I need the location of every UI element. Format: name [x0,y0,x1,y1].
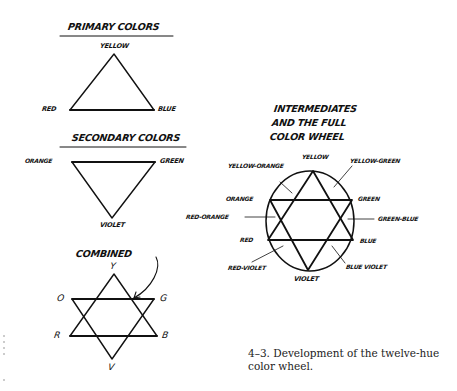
wheel-label-blue: BLUE [360,238,377,244]
wheel-label-orange: ORANGE [226,196,254,202]
label-green: GREEN [160,158,185,165]
letter-o: O [56,294,64,303]
wheel-label-green-blue: GREEN-BLUE [378,216,419,222]
combined-triangle-down [72,299,154,359]
scan-mark [3,347,5,349]
wheel-title-line1: INTERMEDIATES [273,104,357,114]
wheel-label-yellow-orange: YELLOW-ORANGE [228,163,284,169]
combined-arrow [134,257,158,298]
letter-v: V [107,363,114,372]
combined-triangle-up [70,274,157,336]
label-red: RED [42,106,57,113]
wheel-label-green: GREEN [358,196,381,202]
color-wheel-figure: PRIMARY COLORS YELLOW RED BLUE SECONDARY… [0,0,457,391]
primary-title: PRIMARY COLORS [67,22,160,32]
wheel-label-red-violet: RED-VIOLET [228,265,267,271]
wheel-label-blue-violet: BLUE VIOLET [346,264,388,270]
wheel-title-line3: COLOR WHEEL [269,132,345,142]
scan-mark [3,341,5,343]
letter-r: R [53,331,60,340]
combined-title: COMBINED [75,249,132,259]
letter-g: G [159,294,167,303]
wheel-circle [266,171,354,271]
secondary-title: SECONDARY COLORS [71,133,180,143]
label-yellow: YELLOW [100,43,130,50]
primary-triangle [70,54,154,110]
wheel-label-yellow-green: YELLOW-GREEN [350,158,401,164]
figure-caption-line2: color wheel. [248,360,313,373]
wheel-label-yellow: YELLOW [302,154,329,160]
wheel-label-violet: VIOLET [294,276,320,283]
label-violet: VIOLET [100,222,126,229]
wheel-label-red-orange: RED-ORANGE [186,214,230,220]
scan-mark [3,335,5,337]
scan-mark [3,379,5,381]
label-orange: ORANGE [25,158,53,164]
figure-caption-line1: 4–3. Development of the twelve-hue [248,347,439,360]
scan-mark [3,353,5,355]
label-blue: BLUE [158,106,177,113]
secondary-triangle [72,162,155,218]
wheel-label-red: RED [240,237,254,243]
wheel-triangle-up [268,171,353,240]
letter-b: B [161,331,168,340]
wheel-title-line2: AND THE FULL [271,118,347,128]
